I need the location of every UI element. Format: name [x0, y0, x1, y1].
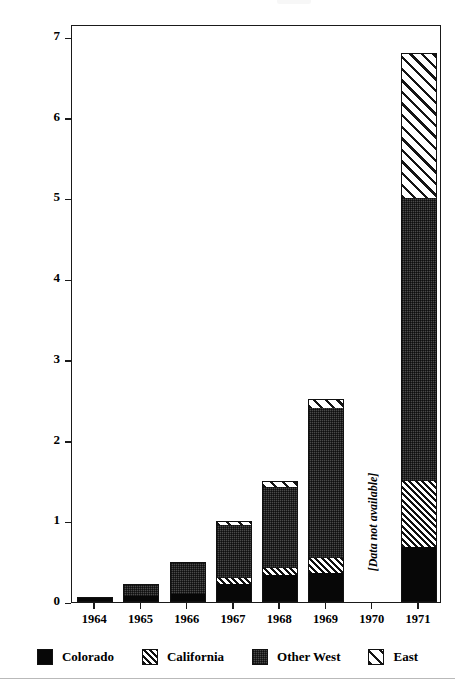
bar-1968 [262, 481, 298, 602]
x-axis-tick-label: 1964 [82, 612, 107, 627]
dense-hatch-swatch [142, 649, 158, 665]
bar-segment-1971-california [401, 481, 437, 547]
bar-segment-1971-east [401, 53, 437, 198]
x-axis-tick-label: 1971 [405, 612, 430, 627]
legend-item-other-west: Other West [252, 649, 340, 665]
bar-segment-1967-california [216, 578, 252, 584]
x-axis-tick-mark [417, 603, 419, 609]
bar-segment-1968-california [262, 568, 298, 575]
legend-label: California [167, 649, 224, 665]
y-axis-tick-label: 4 [54, 271, 61, 284]
bar-segment-1964-colorado [77, 597, 113, 602]
bar-segment-1968-other-west [262, 487, 298, 568]
x-axis-tick-mark [140, 603, 142, 609]
bar-segment-1967-other-west [216, 525, 252, 577]
legend-label: Colorado [62, 649, 114, 665]
bar-segment-1969-other-west [308, 408, 344, 557]
bar-segment-1969-colorado [308, 573, 344, 602]
y-axis-tick-label: 3 [54, 352, 61, 365]
bar-1964 [77, 597, 113, 602]
sparse-hatch-swatch [368, 649, 384, 665]
bar-segment-1968-colorado [262, 575, 298, 602]
x-axis-tick-mark [186, 603, 188, 609]
x-axis-tick-label: 1966 [174, 612, 199, 627]
x-axis-tick-mark [93, 603, 95, 609]
legend-label: Other West [277, 649, 340, 665]
y-axis-tick-label: 2 [54, 433, 61, 446]
bar-segment-1969-east [308, 399, 344, 409]
bar-segment-1966-other-west [170, 562, 206, 594]
bar-segment-1971-colorado [401, 547, 437, 602]
no-data-annotation: [Data not available] [365, 473, 380, 572]
stipple-swatch [252, 649, 268, 665]
x-axis-tick-label: 1965 [128, 612, 153, 627]
y-axis-tick-label: 5 [54, 190, 61, 203]
x-axis-tick-label: 1968 [267, 612, 292, 627]
x-axis-tick-mark [232, 603, 234, 609]
bar-segment-1968-east [262, 481, 298, 487]
bar-1971 [401, 53, 437, 602]
x-axis-tick-label: 1970 [359, 612, 384, 627]
x-axis-tick-label: 1967 [220, 612, 245, 627]
page-top-artifact [277, 0, 311, 4]
solid-black-swatch [37, 649, 53, 665]
x-axis-tick-label: 1969 [313, 612, 338, 627]
y-axis-tick-label: 7 [54, 29, 61, 42]
x-axis-tick-mark [325, 603, 327, 609]
x-axis-tick-mark [278, 603, 280, 609]
y-axis-tick-label: 0 [54, 594, 61, 607]
bar-segment-1966-colorado [170, 594, 206, 602]
bar-1967 [216, 521, 252, 602]
plot-area: [Data not available] [71, 25, 441, 603]
footer-divider [0, 678, 455, 679]
bar-segment-1965-colorado [123, 596, 159, 602]
bar-segment-1967-colorado [216, 584, 252, 602]
y-axis-tick-label: 6 [54, 110, 61, 123]
bar-segment-1969-california [308, 558, 344, 573]
x-axis-tick-mark [371, 603, 373, 609]
bar-segment-1971-other-west [401, 198, 437, 481]
bar-1965 [123, 584, 159, 602]
chart-legend: ColoradoCaliforniaOther WestEast [0, 645, 455, 669]
y-axis-tick-label: 1 [54, 513, 61, 526]
legend-item-california: California [142, 649, 224, 665]
legend-item-colorado: Colorado [37, 649, 114, 665]
legend-item-east: East [368, 649, 418, 665]
bar-segment-1967-east [216, 521, 252, 525]
legend-label: East [393, 649, 418, 665]
bar-1969 [308, 399, 344, 602]
bar-1966 [170, 562, 206, 602]
bar-segment-1965-other-west [123, 584, 159, 595]
